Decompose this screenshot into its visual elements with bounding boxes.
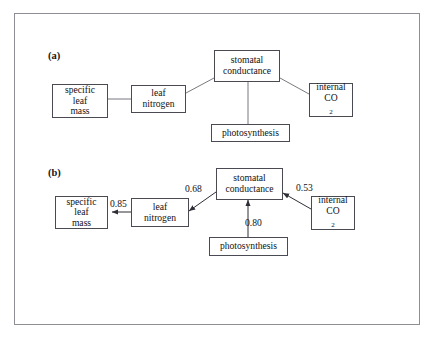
- node-line-mass: mass: [65, 106, 95, 117]
- edge-ico2-to-sc: [283, 193, 311, 209]
- panel-a-node-leaf-nitrogen: leaf nitrogen: [131, 85, 186, 113]
- panel-b-node-specific-leaf-mass: specific leaf mass: [55, 196, 108, 229]
- coefficient-leaf-nitrogen-to-specific-leaf-mass: 0.85: [110, 198, 127, 209]
- panel-b-node-photosynthesis: photosynthesis: [209, 237, 288, 256]
- panel-b-node-leaf-nitrogen: leaf nitrogen: [131, 198, 189, 227]
- node-line-mass: mass: [67, 218, 97, 229]
- node-line-photosynthesis: photosynthesis: [222, 128, 279, 139]
- coefficient-stomatal-conductance-to-leaf-nitrogen: 0.68: [185, 183, 202, 194]
- panel-label-b: (b): [48, 167, 61, 178]
- panel-a-node-photosynthesis: photosynthesis: [211, 124, 290, 142]
- panel-b-node-stomatal-conductance: stomatal conductance: [216, 168, 283, 200]
- panel-a-node-specific-leaf-mass: specific leaf mass: [52, 84, 108, 118]
- node-line-conductance: conductance: [223, 66, 271, 77]
- panel-a-node-internal-co2: internal CO2: [309, 83, 353, 117]
- node-line-photosynthesis: photosynthesis: [220, 241, 277, 252]
- panel-b-node-internal-co2: internal CO2: [311, 196, 355, 230]
- node-line-co2: CO2: [318, 206, 347, 231]
- coefficient-internal-co2-to-stomatal-conductance: 0.53: [296, 182, 313, 193]
- node-line-nitrogen: nitrogen: [143, 99, 175, 110]
- edge-ln-sc: [186, 78, 214, 93]
- node-line-nitrogen: nitrogen: [144, 213, 176, 224]
- node-line-conductance: conductance: [226, 184, 274, 195]
- panel-a-node-stomatal-conductance: stomatal conductance: [214, 50, 280, 82]
- node-line-co2: CO2: [316, 93, 345, 118]
- edge-sc-ico2: [280, 78, 309, 94]
- panel-label-a: (a): [48, 50, 60, 61]
- coefficient-photosynthesis-to-stomatal-conductance: 0.80: [245, 217, 262, 228]
- node-line-leaf: leaf: [144, 202, 176, 213]
- edge-sc-to-ln: [189, 192, 216, 211]
